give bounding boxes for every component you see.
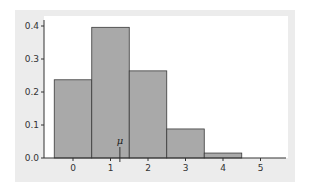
y-tick-label: 0.4: [25, 21, 40, 31]
x-tick-label: 2: [145, 163, 151, 173]
x-tick-label: 5: [258, 163, 264, 173]
histogram-chart: 0.00.10.20.30.4 012345 μ: [0, 0, 310, 190]
bar-0: [54, 80, 92, 158]
bar-3: [167, 129, 205, 158]
y-tick-label: 0.3: [25, 54, 39, 64]
y-tick-label: 0.2: [25, 87, 39, 97]
x-axis: 012345: [44, 158, 286, 173]
y-tick-label: 0.0: [25, 153, 40, 163]
bar-2: [129, 71, 167, 158]
x-tick-label: 1: [108, 163, 114, 173]
bar-1: [92, 27, 130, 158]
mean-label: μ: [117, 135, 124, 146]
y-axis: 0.00.10.20.30.4: [25, 20, 44, 163]
x-tick-label: 4: [220, 163, 226, 173]
y-tick-label: 0.1: [25, 120, 39, 130]
bar-4: [204, 153, 242, 158]
x-tick-label: 3: [183, 163, 189, 173]
x-tick-label: 0: [70, 163, 76, 173]
bars-group: [54, 27, 242, 158]
